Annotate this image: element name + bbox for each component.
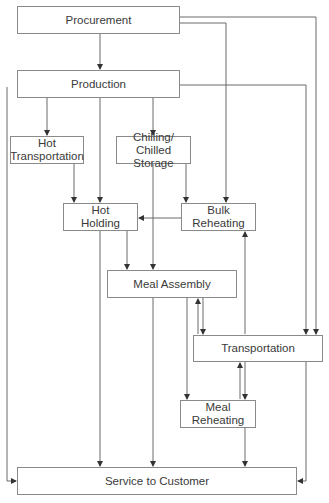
node-procurement: Procurement	[17, 6, 180, 34]
node-label: Bulk Reheating	[192, 204, 244, 230]
node-production: Production	[17, 70, 180, 98]
node-bulk-reheating: Bulk Reheating	[181, 203, 256, 231]
node-label: Procurement	[66, 14, 132, 27]
node-service-to-customer: Service to Customer	[17, 467, 297, 495]
node-hot-holding: Hot Holding	[63, 203, 138, 231]
node-label: Hot Holding	[81, 204, 120, 230]
node-meal-assembly: Meal Assembly	[107, 270, 237, 298]
node-transportation: Transportation	[193, 335, 323, 362]
node-meal-reheating: Meal Reheating	[180, 400, 256, 428]
node-label: Production	[71, 78, 126, 91]
node-label: Meal Assembly	[133, 278, 210, 291]
node-hot-transportation: Hot Transportation	[10, 136, 84, 164]
node-label: Hot Transportation	[10, 137, 84, 163]
node-label: Meal Reheating	[192, 401, 244, 427]
node-label: Transportation	[221, 342, 295, 355]
node-chilling: Chilling/ Chilled Storage	[116, 136, 191, 164]
node-label: Chilling/ Chilled Storage	[117, 131, 190, 170]
node-label: Service to Customer	[105, 475, 209, 488]
